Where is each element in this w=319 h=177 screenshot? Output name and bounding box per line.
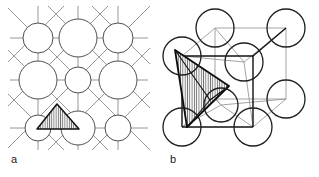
atom-edge-middle-right	[99, 61, 137, 99]
panel-a-label: a	[11, 154, 17, 165]
atom-centre	[65, 67, 91, 93]
panel-a	[6, 6, 150, 150]
atom-edge-middle-left	[19, 61, 57, 99]
panel-a-atom-circles	[19, 19, 137, 145]
atom-corner-bottom-right	[105, 115, 131, 141]
panel-b-label: b	[170, 154, 176, 165]
atom-edge-top-centre	[59, 19, 97, 57]
atom-corner-top-right	[103, 23, 133, 53]
crystal-lattice-figure	[0, 0, 319, 177]
atom-corner-top-left	[23, 23, 53, 53]
